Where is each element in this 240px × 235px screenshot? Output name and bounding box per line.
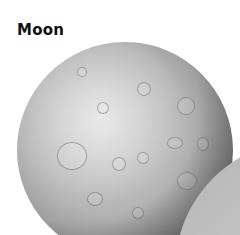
page-title: Moon xyxy=(17,21,64,39)
